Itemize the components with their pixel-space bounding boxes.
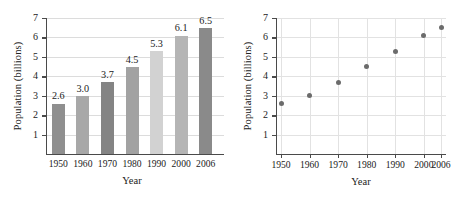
scatter-chart-x-tick-label: 1980	[353, 160, 381, 170]
scatter-chart-x-tick-label: 1970	[324, 160, 352, 170]
scatter-chart-gridline-vertical	[281, 18, 282, 154]
bar-chart-panel: Population (billions) Year 12345672.6195…	[0, 0, 232, 200]
bar-chart-x-tick-label: 2000	[168, 159, 194, 169]
scatter-chart-gridline-horizontal	[276, 57, 446, 58]
scatter-chart-y-tick-label: 3	[252, 91, 268, 101]
bar-chart-value-label: 2.6	[45, 91, 71, 101]
bar-chart-value-label: 3.7	[94, 70, 120, 80]
bar-chart-y-tick-label: 4	[22, 71, 38, 81]
bar-chart-value-label: 3.0	[70, 84, 96, 94]
scatter-chart-gridline-horizontal	[276, 76, 446, 77]
bar-chart-x-axis-label: Year	[46, 175, 218, 186]
scatter-chart-data-point	[279, 101, 284, 106]
scatter-chart-y-tick-label: 7	[252, 13, 268, 23]
bar-chart-value-label: 6.1	[168, 23, 194, 33]
scatter-chart-gridline-horizontal	[276, 37, 446, 38]
scatter-chart-x-tick-label: 2006	[427, 160, 455, 170]
bar-chart-x-tick-label: 2006	[193, 159, 219, 169]
scatter-chart-gridline-horizontal	[276, 18, 446, 19]
bar-chart-value-label: 6.5	[193, 16, 219, 26]
bar-chart-bar	[101, 82, 114, 154]
bar-chart-bar	[126, 67, 139, 154]
bar-chart-y-tick-label: 1	[22, 130, 38, 140]
bar-chart-y-tick-label: 7	[22, 13, 38, 23]
bar-chart-gridline	[46, 37, 224, 38]
scatter-chart-x-axis-label: Year	[276, 176, 446, 187]
scatter-chart-x-axis-line	[276, 154, 446, 155]
scatter-chart-gridline-vertical	[310, 18, 311, 154]
scatter-chart-data-point	[336, 80, 341, 85]
scatter-chart-y-tick-label: 2	[252, 110, 268, 120]
bar-chart-bar	[199, 28, 212, 154]
scatter-chart-data-point	[307, 93, 312, 98]
scatter-chart-gridline-vertical	[338, 18, 339, 154]
scatter-chart-x-tick-label: 1990	[381, 160, 409, 170]
scatter-chart-gridline-vertical	[441, 18, 442, 154]
scatter-chart-gridline-horizontal	[276, 115, 446, 116]
bar-chart-x-tick-label: 1980	[119, 159, 145, 169]
scatter-chart-x-tick-label: 1950	[267, 160, 295, 170]
scatter-chart-panel: Population (billions) Year 1234567195019…	[232, 0, 469, 200]
bar-chart-y-tick-label: 2	[22, 110, 38, 120]
bar-chart-x-tick-label: 1990	[144, 159, 170, 169]
scatter-chart-y-tick-label: 5	[252, 52, 268, 62]
bar-chart-y-tick-label: 6	[22, 32, 38, 42]
scatter-chart-data-point	[439, 25, 444, 30]
scatter-chart-y-tick-label: 1	[252, 130, 268, 140]
bar-chart-bar	[175, 36, 188, 155]
scatter-chart-y-tick-label: 4	[252, 71, 268, 81]
scatter-chart-data-point	[393, 49, 398, 54]
bar-chart-x-tick-label: 1960	[70, 159, 96, 169]
two-panel-population-figure: Population (billions) Year 12345672.6195…	[0, 0, 469, 200]
scatter-chart-gridline-vertical	[395, 18, 396, 154]
bar-chart-x-axis-line	[46, 154, 224, 155]
bar-chart-y-tick-label: 5	[22, 52, 38, 62]
scatter-chart-gridline-horizontal	[276, 135, 446, 136]
scatter-chart-y-axis-line	[276, 18, 277, 154]
bar-chart-value-label: 5.3	[144, 39, 170, 49]
scatter-chart-plot-area	[276, 18, 446, 154]
scatter-chart-gridline-vertical	[424, 18, 425, 154]
scatter-chart-gridline-horizontal	[276, 96, 446, 97]
bar-chart-x-tick-label: 1950	[45, 159, 71, 169]
bar-chart-value-label: 4.5	[119, 55, 145, 65]
bar-chart-x-tick-label: 1970	[94, 159, 120, 169]
scatter-chart-x-tick-label: 1960	[296, 160, 324, 170]
bar-chart-bar	[52, 104, 65, 155]
scatter-chart-y-tick-label: 6	[252, 32, 268, 42]
bar-chart-bar	[76, 96, 89, 154]
bar-chart-y-tick-label: 3	[22, 91, 38, 101]
bar-chart-bar	[150, 51, 163, 154]
scatter-chart-data-point	[364, 64, 369, 69]
scatter-chart-gridline-vertical	[367, 18, 368, 154]
bar-chart-y-axis-line	[46, 18, 47, 154]
